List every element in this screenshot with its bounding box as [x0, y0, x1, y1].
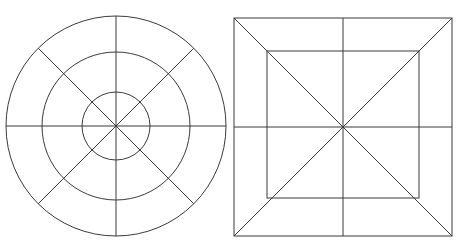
square-diagram	[234, 18, 452, 236]
figure-canvas	[0, 0, 459, 242]
canvas-background	[0, 0, 459, 242]
circle-diagram	[6, 16, 226, 236]
